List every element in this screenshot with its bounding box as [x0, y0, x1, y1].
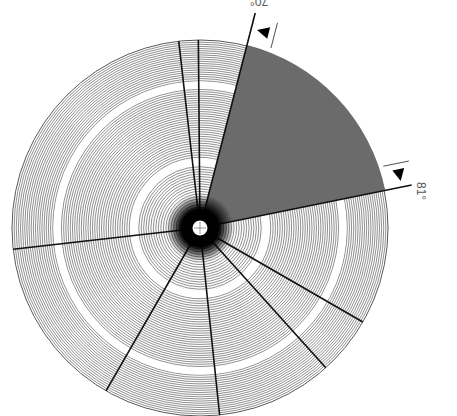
end-marker-tick [383, 161, 408, 166]
polar-diagram: 70° 81° [0, 0, 457, 416]
start-angle-label: 70° [250, 0, 268, 8]
end-marker-triangle-icon [392, 168, 404, 181]
center-hub [166, 194, 234, 262]
diagram-canvas [0, 0, 457, 416]
start-marker-triangle-icon [257, 27, 270, 39]
start-marker-tick [271, 23, 277, 48]
end-angle-label: 81° [414, 182, 428, 200]
